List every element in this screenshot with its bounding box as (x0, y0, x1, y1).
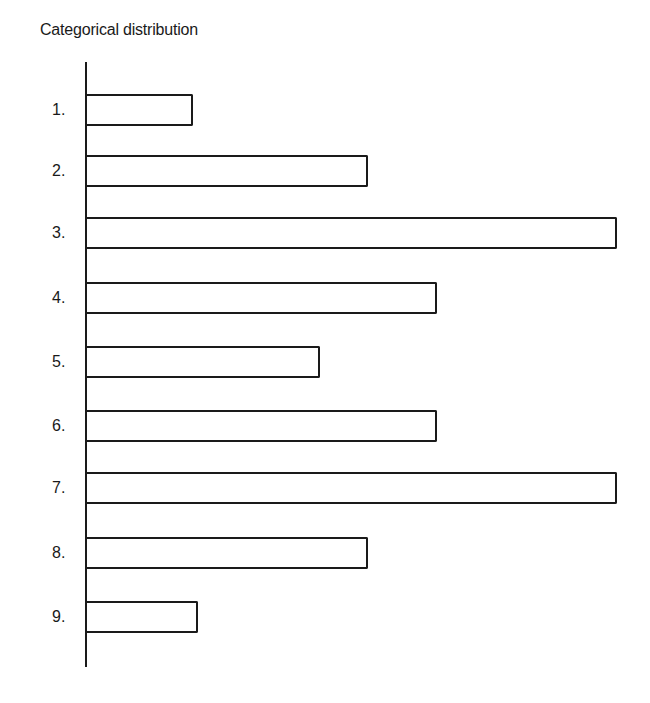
bar (87, 282, 437, 314)
bar (87, 155, 368, 187)
category-label: 8. (52, 544, 82, 562)
bar (87, 537, 368, 569)
category-label: 1. (52, 101, 82, 119)
category-label: 9. (52, 608, 82, 626)
bar (87, 410, 437, 442)
category-label: 3. (52, 224, 82, 242)
bar (87, 472, 617, 504)
chart-title: Categorical distribution (40, 21, 198, 39)
category-label: 7. (52, 479, 82, 497)
bar (87, 94, 193, 126)
bar (87, 346, 320, 378)
category-label: 5. (52, 353, 82, 371)
category-label: 6. (52, 417, 82, 435)
category-label: 4. (52, 289, 82, 307)
bar (87, 601, 198, 633)
category-label: 2. (52, 162, 82, 180)
bar (87, 217, 617, 249)
